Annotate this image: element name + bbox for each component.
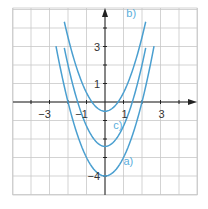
curve-label-a: a) xyxy=(124,155,134,167)
x-tick-label: −3 xyxy=(38,108,51,120)
x-tick-label: −1 xyxy=(75,108,88,120)
x-tick-label: 1 xyxy=(121,108,127,120)
x-axis-arrow-icon xyxy=(188,99,197,105)
y-tick-label: −4 xyxy=(87,170,100,182)
parabola-graph: a)b)c) −3−11331−4 xyxy=(0,0,208,209)
y-tick-label: 1 xyxy=(94,78,100,90)
axes xyxy=(13,8,197,195)
curve-label-c: c) xyxy=(113,119,122,131)
y-tick-label: 3 xyxy=(94,41,100,53)
curve-label-b: b) xyxy=(126,7,136,19)
x-tick-label: 3 xyxy=(158,108,164,120)
